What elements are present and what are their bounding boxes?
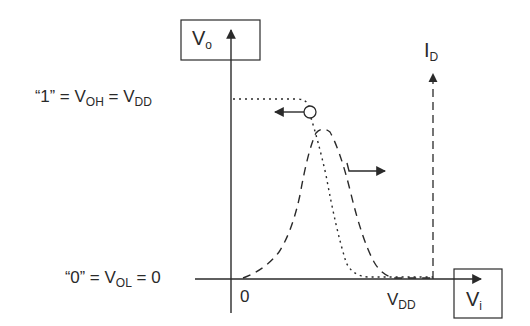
high-level-label: “1” = VOH = VDD: [35, 88, 152, 105]
logic-one: 1: [40, 87, 49, 106]
current-axis-label-sub: D: [430, 50, 439, 64]
y-axis-label-main: V: [192, 27, 205, 49]
low-level-label: “0” = VOL = 0: [65, 269, 161, 286]
y-axis-label: Vo: [192, 28, 212, 48]
drain-current-curve: [243, 129, 433, 278]
x-axis-label-sub: i: [479, 299, 482, 313]
vdd-subscript: DD: [135, 95, 152, 109]
x-axis-label: Vi: [466, 289, 482, 309]
logic-zero: 0: [70, 268, 79, 287]
voh-subscript: OH: [86, 95, 104, 109]
y-axis-label-sub: o: [205, 38, 212, 52]
x-axis-label-main: V: [466, 288, 479, 310]
voltage-transfer-curve: [233, 99, 433, 277]
current-pointer-arrow: [347, 163, 385, 171]
vol-subscript: OL: [116, 276, 132, 290]
vdd-tick-label: VDD: [387, 291, 416, 308]
current-axis-label: ID: [424, 40, 438, 60]
origin-tick-label: 0: [240, 288, 249, 305]
switching-point-marker: [304, 106, 316, 118]
